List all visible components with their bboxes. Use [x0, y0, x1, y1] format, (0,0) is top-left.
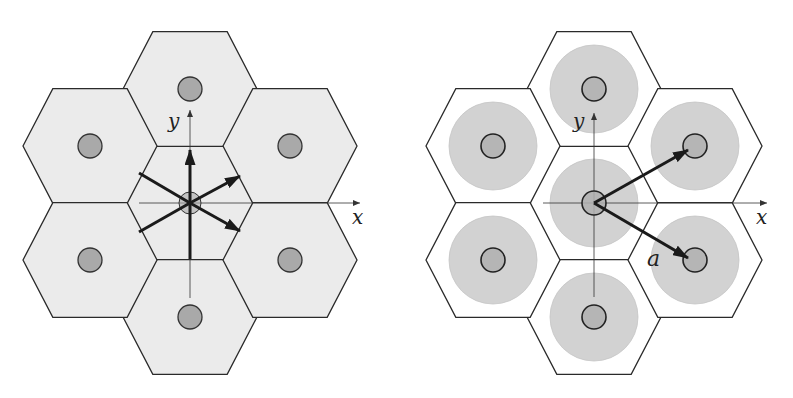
left-panel: x y [23, 32, 363, 375]
atom-circle [178, 77, 202, 101]
atom-circle [481, 134, 505, 158]
atom-circle [582, 77, 606, 101]
atom-circle [278, 134, 302, 158]
atom-circle [582, 305, 606, 329]
left-y-label: y [167, 109, 180, 133]
atom-circle [683, 134, 707, 158]
right-panel: x y a [426, 32, 767, 375]
atom-circle [78, 134, 102, 158]
atom-circle [683, 248, 707, 272]
atom-circle [178, 305, 202, 329]
atom-circle [481, 248, 505, 272]
right-y-label: y [572, 109, 585, 133]
hexagonal-lattice-diagram: x y x y a [0, 0, 793, 398]
atom-circle [78, 248, 102, 272]
right-x-label: x [756, 205, 767, 229]
lattice-vector-label-a: a [647, 246, 660, 271]
atom-circle [278, 248, 302, 272]
left-x-label: x [352, 205, 363, 229]
